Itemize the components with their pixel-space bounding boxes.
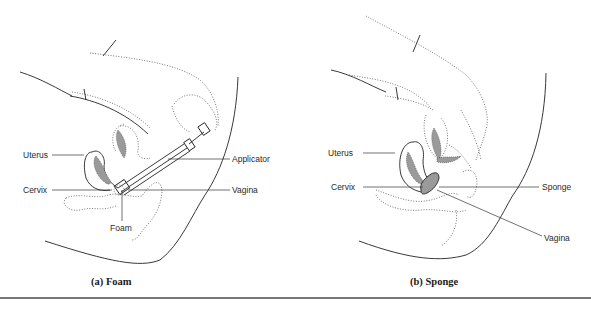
caption-title: Foam (106, 276, 132, 287)
label-foam: Foam (110, 224, 132, 233)
contraception-figure: Uterus Cervix Foam Applicator Vagina (a)… (0, 0, 591, 313)
label-vagina: Vagina (232, 186, 258, 195)
label-sponge: Sponge (542, 183, 571, 192)
panel-foam: Uterus Cervix Foam Applicator Vagina (a)… (0, 0, 300, 300)
panel-sponge: Uterus Cervix Sponge Vagina (b) Sponge (291, 0, 591, 300)
label-cervix: Cervix (23, 186, 47, 195)
caption-letter: (a) (91, 276, 103, 287)
label-uterus: Uterus (23, 151, 48, 160)
sponge-shape (421, 173, 439, 194)
label-cervix: Cervix (331, 183, 355, 192)
caption-title: Sponge (425, 276, 458, 287)
caption-foam: (a) Foam (91, 276, 132, 287)
label-vagina: Vagina (544, 234, 570, 243)
label-applicator: Applicator (232, 155, 270, 164)
caption-letter: (b) (410, 276, 423, 287)
label-uterus: Uterus (328, 149, 353, 158)
caption-sponge: (b) Sponge (410, 276, 458, 287)
leader-vagina (437, 190, 542, 236)
bottom-rule-divider (0, 297, 591, 299)
